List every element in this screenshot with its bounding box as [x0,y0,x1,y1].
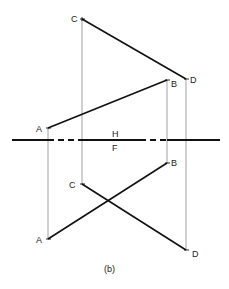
label-a-front: A [36,235,42,245]
label-d-top: D [190,75,197,85]
label-b-top: B [171,79,177,89]
fold-label-h: H [112,129,119,139]
fold-label-f: F [112,143,118,153]
line-cd-top [82,19,186,79]
orthographic-projection-diagram: C D B A H F B C A D (b) [0,0,229,289]
label-a-top: A [36,124,42,134]
front-view [48,163,186,250]
label-b-front: B [171,158,177,168]
label-c-front: C [69,180,76,190]
figure-caption: (b) [104,264,115,274]
top-view [48,19,186,128]
line-cd-front [82,184,186,250]
line-ab-top [48,80,167,128]
label-c-top: C [71,14,78,24]
label-d-front: D [192,249,199,259]
